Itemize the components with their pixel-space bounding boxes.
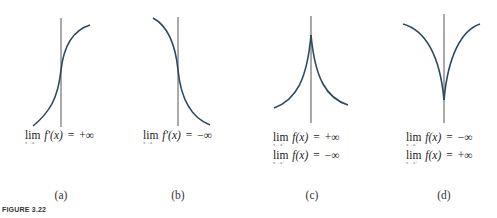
panel-a-caption: (a) <box>55 189 68 201</box>
panel-b-curve <box>153 18 210 125</box>
panel-d-curve-right <box>444 24 480 100</box>
panel-c-limit-1: limx→a⁻f(x)=+∞ <box>273 132 340 144</box>
panel-d-limit-2: limx→a⁺f(x)=+∞ <box>406 150 473 162</box>
panel-d-caption: (d) <box>437 189 450 201</box>
lim-operator: limx→a⁻ <box>273 132 288 144</box>
lim-equals: = <box>313 149 320 161</box>
lim-equals: = <box>446 131 453 143</box>
panel-c-curve-right <box>311 35 348 105</box>
lim-subscript: x→a <box>25 141 34 146</box>
lim-expression: f(x) <box>292 149 308 161</box>
lim-equals: = <box>186 129 193 141</box>
lim-expression: f(x) <box>425 131 441 143</box>
lim-value: +∞ <box>458 149 473 161</box>
lim-expression: f(x) <box>425 149 441 161</box>
lim-subscript: x→a⁻ <box>406 143 418 148</box>
panel-c-curve-left <box>274 35 311 108</box>
figure-graphs <box>0 0 497 218</box>
lim-value: −∞ <box>197 129 212 141</box>
lim-value: −∞ <box>325 149 340 161</box>
panel-b-caption: (b) <box>171 189 184 201</box>
lim-operator: limx→a⁻ <box>406 132 421 144</box>
lim-expression: f′(x) <box>162 129 180 141</box>
panel-d-curve-left <box>403 24 444 100</box>
panel-a-limit-1: limx→af′(x)=+∞ <box>25 130 94 142</box>
lim-value: −∞ <box>458 131 473 143</box>
lim-value: +∞ <box>79 129 94 141</box>
lim-subscript: x→a⁺ <box>273 161 285 166</box>
panel-b-graph <box>153 17 210 126</box>
panel-a-graph <box>33 18 90 127</box>
lim-subscript: x→a <box>143 141 152 146</box>
panel-c-caption: (c) <box>306 189 319 201</box>
lim-equals: = <box>446 149 453 161</box>
lim-subscript: x→a⁺ <box>406 161 418 166</box>
lim-expression: f′(x) <box>44 129 62 141</box>
lim-subscript: x→a⁻ <box>273 143 285 148</box>
lim-equals: = <box>313 131 320 143</box>
figure-label: FIGURE 3.22 <box>2 206 46 213</box>
panel-c-graph <box>274 16 348 123</box>
lim-operator: limx→a⁺ <box>406 150 421 162</box>
panel-c-limit-2: limx→a⁺f(x)=−∞ <box>273 150 340 162</box>
lim-value: +∞ <box>325 131 340 143</box>
lim-operator: limx→a <box>143 130 158 142</box>
lim-operator: limx→a <box>25 130 40 142</box>
lim-expression: f(x) <box>292 131 308 143</box>
panel-d-graph <box>403 14 480 123</box>
lim-operator: limx→a⁺ <box>273 150 288 162</box>
panel-b-limit-1: limx→af′(x)=−∞ <box>143 130 212 142</box>
panel-d-limit-1: limx→a⁻f(x)=−∞ <box>406 132 473 144</box>
lim-equals: = <box>68 129 75 141</box>
